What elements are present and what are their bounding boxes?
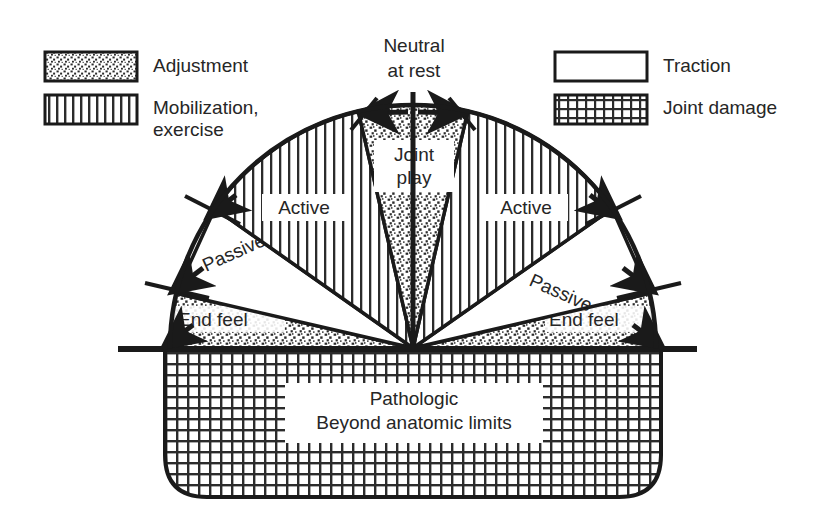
legend-label-traction: Traction [663,55,731,77]
pathologic-label-line1: Pathologic [370,388,459,409]
joint-damage-swatch [555,95,647,124]
joint-range-of-motion-diagram: Pathologic Beyond anatomic limits End fe… [0,0,827,522]
neutral-at-rest-line1: Neutral [383,35,444,56]
legend-left [45,52,137,124]
legend-label-mobilization: Mobilization, exercise [153,97,259,141]
adjustment-swatch [45,52,137,81]
neutral-at-rest-line2: at rest [388,60,442,81]
region-pathologic: Pathologic Beyond anatomic limits [165,350,661,497]
traction-swatch [555,52,647,81]
arrow-joint-play-left [362,112,408,113]
arrow-joint-play-right [418,112,464,113]
diagram-canvas: Pathologic Beyond anatomic limits End fe… [0,0,827,522]
active-left-label: Active [278,197,330,218]
legend-label-joint-damage: Joint damage [663,97,777,119]
active-right-label: Active [500,197,552,218]
mobilization-swatch [45,95,137,124]
legend-right [555,52,647,124]
pathologic-label-line2: Beyond anatomic limits [316,412,511,433]
legend-label-adjustment: Adjustment [153,55,248,77]
